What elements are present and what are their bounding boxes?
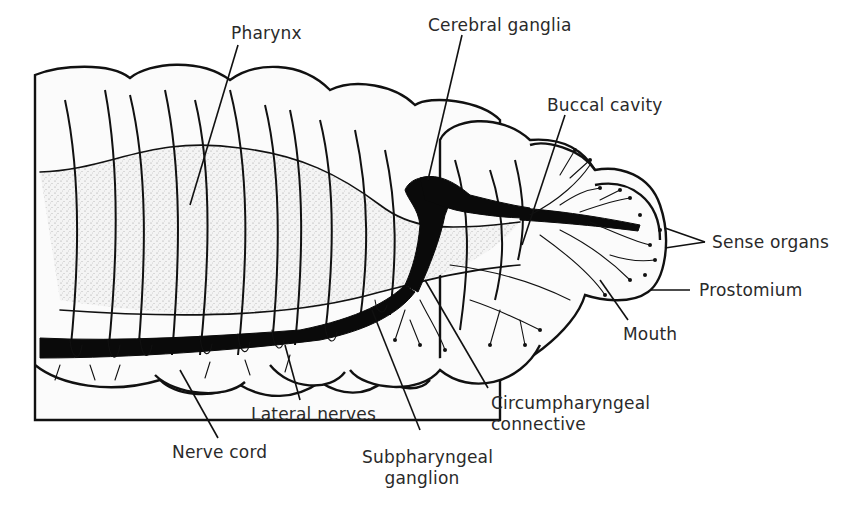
label-buccal-cavity: Buccal cavity	[547, 95, 663, 116]
label-circumpharyngeal-connective: Circumpharyngeal connective	[491, 393, 650, 435]
label-mouth: Mouth	[623, 324, 677, 345]
label-prostomium: Prostomium	[699, 280, 803, 301]
label-circumpharyngeal-line2: connective	[491, 414, 650, 435]
earthworm-nervous-system-diagram: Pharynx Cerebral ganglia Buccal cavity S…	[0, 0, 864, 519]
label-subpharyngeal-ganglion: Subpharyngeal ganglion	[362, 447, 482, 489]
label-lateral-nerves: Lateral nerves	[251, 404, 376, 425]
label-sense-organs: Sense organs	[712, 232, 829, 253]
label-circumpharyngeal-line1: Circumpharyngeal	[491, 393, 650, 414]
diagram-illustration	[0, 0, 864, 519]
label-cerebral-ganglia: Cerebral ganglia	[428, 15, 572, 36]
label-subpharyngeal-line1: Subpharyngeal	[362, 447, 482, 468]
label-pharynx: Pharynx	[231, 23, 302, 44]
label-subpharyngeal-line2: ganglion	[362, 468, 482, 489]
label-nerve-cord: Nerve cord	[172, 442, 267, 463]
